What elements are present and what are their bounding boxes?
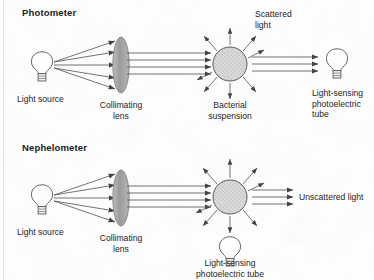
photometer-suspension-label: Bacterial suspension [192,100,268,121]
nephelometer-light-source-bulb [31,185,52,214]
nephelometer-collimated-rays [127,186,211,207]
photometer-panel [31,28,347,99]
photometer-transmitted-rays [252,57,318,71]
nephelometer-title: Nephelometer [22,142,87,153]
photometer-collimating-lens-label: Collimating lens [82,100,160,121]
page-edge-rule [3,0,4,280]
photometer-collimated-rays [127,53,211,74]
photometer-nephelometer-diagram [0,0,374,280]
nephelometer-unscattered-light-label: Unscattered light [299,192,364,203]
photometer-diverging-rays [54,41,115,89]
photometer-light-source-bulb [31,52,52,81]
nephelometer-diverging-rays [54,174,115,222]
photometer-collimating-lens [113,37,129,93]
nephelometer-detector-label: Light-sensing photoelectric tube [170,258,290,279]
photometer-light-source-label: Light source [17,94,64,105]
nephelometer-transmitted-rays [252,190,293,204]
nephelometer-collimating-lens-label: Collimating lens [82,233,160,254]
photometer-scattered-light-label: Scattered light [255,9,292,30]
nephelometer-bacterial-suspension [213,180,247,214]
nephelometer-light-source-label: Light source [17,227,64,238]
photometer-photoelectric-tube-bulb [326,49,347,78]
photometer-bacterial-suspension [213,47,247,81]
photometer-detector-label: Light-sensing photoelectric tube [312,88,363,120]
nephelometer-panel [31,159,293,266]
diagram-canvas: Photometer Nephelometer Light source Col… [0,0,374,280]
photometer-title: Photometer [22,7,76,18]
nephelometer-collimating-lens [113,170,129,226]
